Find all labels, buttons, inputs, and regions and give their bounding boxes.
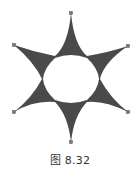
handle-top-right[interactable]	[127, 45, 130, 48]
handle-top-left[interactable]	[13, 44, 16, 47]
handle-top[interactable]	[70, 12, 73, 15]
star-shape	[14, 13, 128, 142]
handle-bottom[interactable]	[70, 141, 73, 144]
handle-bottom-left[interactable]	[13, 111, 16, 114]
figure-caption: 图 8.32	[0, 151, 140, 167]
curved-star-diagram	[0, 0, 140, 150]
handle-bottom-right[interactable]	[127, 111, 130, 114]
